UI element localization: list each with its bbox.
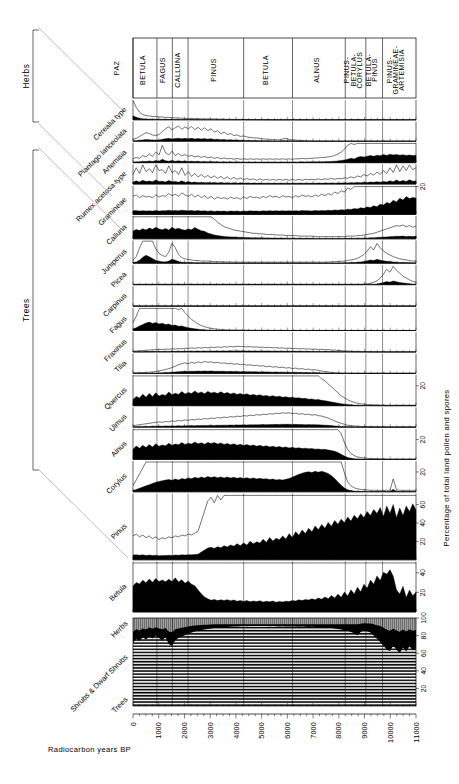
- scale-tick-label: 40: [419, 519, 426, 527]
- svg-text:ALNUS: ALNUS: [313, 57, 320, 83]
- paz-zone: BETULA: [139, 55, 146, 85]
- age-tick-label: 3000: [206, 722, 215, 739]
- summary-scale-tick: 100: [420, 612, 427, 624]
- summary-scale-tick: 80: [420, 632, 427, 640]
- summary-scale-tick: 40: [420, 667, 427, 675]
- svg-text:CORYLUS: CORYLUS: [356, 52, 363, 89]
- scale-tick-label: 20: [419, 183, 426, 191]
- age-axis-title: Radiocarbon years BP: [48, 745, 131, 754]
- scale-tick-label: 20: [419, 436, 426, 444]
- scale-tick-label: 20: [419, 537, 426, 545]
- svg-text:ARTEMISIA: ARTEMISIA: [398, 49, 405, 91]
- scale-tick-label: 20: [419, 468, 426, 476]
- age-tick-label: 8000: [334, 722, 343, 739]
- svg-text:PINUS: PINUS: [210, 58, 217, 82]
- summary-scale-tick: 60: [420, 649, 427, 657]
- age-tick-label: 11000: [412, 722, 421, 742]
- age-tick-label: 0: [129, 722, 138, 726]
- paz-zone: FAGUS: [159, 57, 166, 83]
- summary-track: 20406080100HerbsShrubs & Dwarf ShrubsTre…: [68, 612, 427, 714]
- paz-zone: PINUS: [210, 58, 217, 82]
- pollen-diagram-figure: PAZBETULAFAGUSCALLUNAPINUSBETULAALNUSPIN…: [0, 0, 459, 784]
- percentage-axis-title: Percentage of total land pollen and spor…: [442, 390, 451, 547]
- paz-zone: ALNUS: [313, 57, 320, 83]
- scale-tick-label: 60: [419, 501, 426, 509]
- age-tick-label: 4000: [232, 722, 241, 739]
- paz-zone: CALLUNA: [174, 52, 181, 87]
- age-tick-label: 2000: [180, 722, 189, 739]
- bracket-herbs-label: Herbs: [22, 64, 31, 89]
- svg-text:FAGUS: FAGUS: [159, 57, 166, 83]
- age-tick-label: 9000: [360, 722, 369, 739]
- bracket-trees-label: Trees: [22, 298, 31, 322]
- svg-text:BETULA: BETULA: [139, 55, 146, 85]
- svg-text:PINUS: PINUS: [371, 58, 378, 82]
- paz-zone: BETULA-PINUS: [365, 53, 378, 86]
- paz-zone: PINUS-BETULA-CORYLUS: [343, 52, 362, 89]
- scale-tick-label: 40: [419, 569, 426, 577]
- svg-text:CALLUNA: CALLUNA: [174, 52, 181, 87]
- age-tick-label: 5000: [257, 722, 266, 739]
- age-tick-label: 10000: [386, 722, 395, 743]
- svg-text:BETULA: BETULA: [262, 55, 269, 85]
- summary-scale-tick: 20: [420, 684, 427, 692]
- scale-tick-label: 20: [419, 382, 426, 390]
- paz-header-label: PAZ: [113, 61, 120, 76]
- age-tick-label: 7000: [309, 722, 318, 739]
- age-tick-label: 6000: [283, 722, 292, 739]
- paz-zone: BETULA: [262, 55, 269, 85]
- age-tick-label: 1000: [154, 722, 163, 739]
- scale-tick-label: 20: [419, 588, 426, 596]
